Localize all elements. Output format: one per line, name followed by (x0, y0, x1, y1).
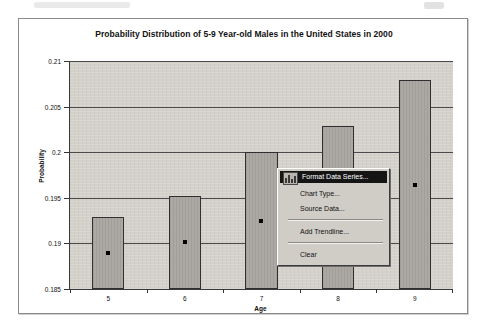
menu-item-format-data-series[interactable]: Format Data Series... (280, 171, 387, 183)
gridline (70, 61, 453, 62)
menu-item-label: Format Data Series... (302, 173, 369, 180)
y-axis-tick (64, 152, 69, 153)
y-axis-tick (64, 198, 69, 199)
y-axis-tick-label: 0.21 (48, 58, 61, 65)
menu-item-source-data[interactable]: Source Data... (278, 201, 389, 216)
y-axis-tick (64, 107, 69, 108)
y-axis-tick-label: 0.205 (45, 103, 61, 110)
series-selection-handle[interactable] (259, 219, 263, 223)
x-axis-tick-label: 8 (336, 295, 340, 302)
menu-separator (288, 219, 383, 221)
gridline (70, 107, 453, 108)
y-axis-tick-label: 0.195 (45, 194, 61, 201)
y-axis-tick (64, 61, 69, 62)
menu-item-add-trendline[interactable]: Add Trendline... (278, 224, 389, 239)
x-axis-tick (147, 289, 148, 293)
x-axis-tick (223, 289, 224, 293)
y-axis-tick-label: 0.185 (45, 286, 61, 293)
chart-object-frame[interactable]: Probability Distribution of 5-9 Year-old… (18, 18, 468, 314)
y-axis-tick-label: 0.19 (48, 240, 61, 247)
menu-item-chart-type[interactable]: Chart Type... (278, 186, 389, 201)
y-axis-title: Probability (38, 149, 45, 183)
x-axis-tick (70, 289, 71, 293)
series-selection-handle[interactable] (106, 251, 110, 255)
bar-6[interactable] (169, 196, 201, 289)
bar-7[interactable] (245, 152, 277, 289)
y-axis-tick-label: 0.2 (52, 149, 61, 156)
scan-artifact-top-right (424, 2, 444, 9)
series-selection-handle[interactable] (413, 183, 417, 187)
x-axis-tick-label: 9 (413, 295, 417, 302)
bar-9[interactable] (399, 80, 431, 289)
x-axis-tick-label: 7 (260, 295, 264, 302)
x-axis-tick (376, 289, 377, 293)
plot-area[interactable]: 0.210.2050.20.1950.190.18556789 (69, 61, 453, 290)
x-axis-tick-label: 6 (183, 295, 187, 302)
y-axis-tick (64, 243, 69, 244)
x-axis-title: Age (69, 305, 452, 312)
menu-item-label: Source Data... (300, 205, 345, 212)
chart-format-icon (283, 172, 298, 185)
menu-item-label: Clear (300, 251, 317, 258)
x-axis-tick-label: 5 (106, 295, 110, 302)
y-axis-tick (64, 289, 69, 290)
bar-5[interactable] (92, 217, 124, 289)
series-selection-handle[interactable] (183, 240, 187, 244)
menu-item-clear[interactable]: Clear (278, 247, 389, 262)
chart-title: Probability Distribution of 5-9 Year-old… (19, 29, 469, 39)
menu-separator (288, 242, 383, 244)
menu-item-label: Chart Type... (300, 190, 340, 197)
scan-artifact-top-left (34, 2, 130, 8)
context-menu[interactable]: Format Data Series... Chart Type... Sour… (277, 168, 390, 266)
x-axis-tick (452, 289, 453, 293)
menu-item-label: Add Trendline... (300, 228, 349, 235)
x-axis-tick (300, 289, 301, 293)
